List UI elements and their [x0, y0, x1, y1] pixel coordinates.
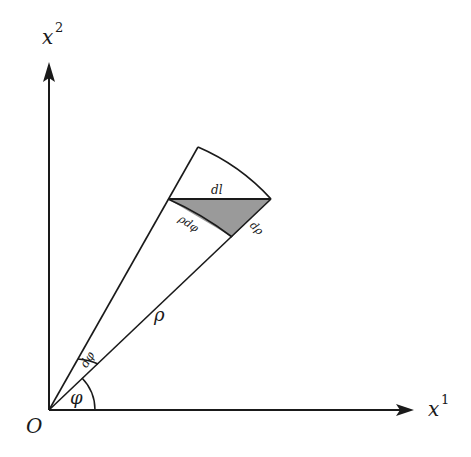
drho-label: dρ [247, 219, 266, 238]
x1-axis-label: x [428, 397, 439, 421]
phi-angle-arc [82, 378, 95, 410]
x2-axis-label: x [42, 25, 53, 49]
x1-axis-superscript: 1 [441, 392, 449, 407]
polar-diagram: x 1 x 2 O φ dφ ρ dl ρdφ dρ [0, 0, 471, 457]
origin-label: O [26, 414, 42, 438]
x2-axis-superscript: 2 [55, 20, 63, 35]
dl-label: dl [211, 183, 223, 197]
outer-arc [198, 147, 271, 199]
phi-label: φ [70, 387, 83, 408]
ray-upper [49, 147, 198, 410]
rho-label: ρ [153, 304, 165, 325]
